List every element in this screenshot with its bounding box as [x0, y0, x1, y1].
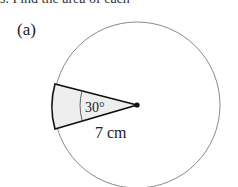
radius-label: 7 cm — [95, 124, 127, 141]
sector-diagram: 30° 7 cm — [0, 0, 238, 187]
center-point — [134, 102, 139, 107]
angle-label: 30° — [85, 100, 105, 115]
